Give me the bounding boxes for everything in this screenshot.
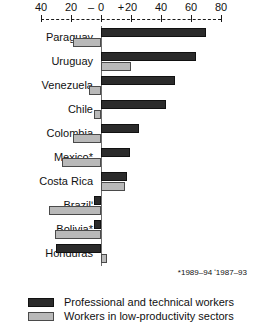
bar-professional-technical — [101, 172, 127, 181]
chart-row: Bolivia* — [0, 219, 257, 243]
bar-low-productivity — [94, 110, 102, 119]
chart-row: Venezuela — [0, 75, 257, 99]
bar-professional-technical — [101, 100, 166, 109]
category-label: Chile — [68, 103, 93, 116]
bar-professional-technical — [101, 124, 139, 133]
chart-row: Paraguay — [0, 27, 257, 51]
chart-row: Honduras — [0, 243, 257, 267]
legend-item: Professional and technical workers — [28, 296, 257, 309]
diverging-bar-chart: 4020020406080 – + ParaguayUruguayVenezue… — [0, 0, 257, 329]
bar-low-productivity — [73, 38, 102, 47]
bar-low-productivity — [101, 182, 125, 191]
axis-tick-label: 40 — [30, 2, 52, 13]
axis-positive-sign: + — [116, 2, 126, 13]
axis-tick-mark — [161, 15, 162, 22]
chart-legend: Professional and technical workersWorker… — [28, 296, 257, 326]
axis-tick-mark — [101, 15, 102, 22]
bar-low-productivity — [89, 86, 101, 95]
chart-plot-area: ParaguayUruguayVenezuelaChileColombiaMex… — [0, 26, 257, 266]
axis-tick-mark — [131, 15, 132, 22]
bar-professional-technical — [94, 220, 102, 229]
chart-footnote: *1989–94 ʹ1987–93 — [0, 268, 247, 278]
category-label: Uruguay — [51, 55, 93, 68]
chart-x-axis: 4020020406080 – + — [0, 0, 257, 26]
bar-low-productivity — [73, 134, 102, 143]
bar-low-productivity — [49, 206, 102, 215]
axis-tick-mark — [221, 15, 222, 22]
axis-tick-label: 20 — [60, 2, 82, 13]
chart-row: Colombia — [0, 123, 257, 147]
axis-tick-mark — [71, 15, 72, 22]
legend-swatch-dark-icon — [28, 298, 54, 307]
bar-low-productivity — [62, 158, 101, 167]
chart-row: Brazilʹ — [0, 195, 257, 219]
bar-low-productivity — [101, 254, 107, 263]
bar-low-productivity — [55, 230, 102, 239]
bar-professional-technical — [101, 148, 130, 157]
legend-item: Workers in low-productivity sectors — [28, 310, 257, 323]
bar-professional-technical — [56, 244, 101, 253]
axis-tick-mark — [41, 15, 42, 22]
bar-professional-technical — [101, 76, 175, 85]
legend-label: Professional and technical workers — [64, 296, 234, 309]
chart-row: Chile — [0, 99, 257, 123]
chart-row: Mexico* — [0, 147, 257, 171]
legend-swatch-light-icon — [28, 312, 54, 321]
bar-low-productivity — [101, 62, 131, 71]
axis-tick-label: 40 — [150, 2, 172, 13]
chart-row: Costa Rica — [0, 171, 257, 195]
axis-tick-label: 80 — [210, 2, 232, 13]
axis-tick-mark — [191, 15, 192, 22]
axis-tick-label: 60 — [180, 2, 202, 13]
category-label: Venezuela — [42, 79, 93, 92]
axis-negative-sign: – — [86, 2, 96, 13]
bar-professional-technical — [101, 28, 206, 37]
bar-professional-technical — [94, 196, 102, 205]
legend-label: Workers in low-productivity sectors — [64, 310, 234, 323]
chart-row: Uruguay — [0, 51, 257, 75]
bar-professional-technical — [101, 52, 196, 61]
category-label: Costa Rica — [39, 175, 93, 188]
